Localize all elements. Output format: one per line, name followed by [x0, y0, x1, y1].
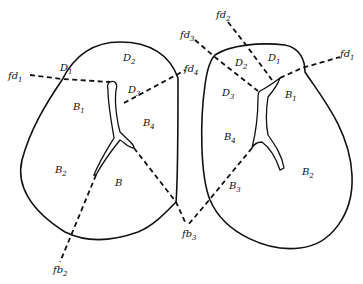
shared-fissure-label-fb3: fb3	[181, 228, 197, 242]
left-region-label-b: B	[114, 177, 122, 188]
right-fissure-fb3	[188, 148, 252, 225]
left-region-label-d2: D2	[122, 52, 136, 66]
right-fissure-label-fd1: fd1	[339, 48, 355, 62]
left-fissure-label-fd1: fd1	[7, 70, 23, 84]
right-region-label-d3: D3	[221, 87, 235, 101]
left-fissure-label-fb2: fb2	[52, 264, 68, 278]
right-bronchus	[252, 78, 284, 170]
labels: D1D2D3B1B4B2Bfd1fd4fb2D2D1D3B1B4B3B2fd2f…	[7, 9, 355, 278]
right-fissure-fd1	[280, 57, 340, 78]
right-region-label-b3: B3	[228, 180, 241, 194]
right-region-label-b1: B1	[284, 89, 297, 103]
lung-segment-diagram: D1D2D3B1B4B2Bfd1fd4fb2D2D1D3B1B4B3B2fd2f…	[0, 0, 363, 284]
left-bronchus	[94, 81, 134, 175]
left-fissure-fb2	[60, 175, 96, 262]
left-fissure-label-fd4: fd4	[183, 63, 199, 77]
right-region-label-b2: B2	[301, 166, 314, 180]
left-region-label-d3: D3	[127, 84, 141, 98]
left-region-label-b2: B2	[54, 164, 67, 178]
left-fissure-fd1	[30, 75, 110, 82]
right-region-label-b4: B4	[223, 131, 236, 145]
right-fissure-fd2	[228, 22, 272, 80]
right-lung-outline	[202, 44, 352, 249]
right-region-label-d1: D1	[267, 52, 281, 66]
left-lung-outline	[21, 42, 178, 240]
right-fissure-label-fd2: fd2	[215, 9, 231, 23]
right-region-label-d2: D2	[234, 57, 248, 71]
left-region-label-b4: B4	[142, 117, 155, 131]
right-fissure-label-fd3: fd3	[179, 29, 195, 43]
left-region-label-b1: B1	[72, 101, 85, 115]
